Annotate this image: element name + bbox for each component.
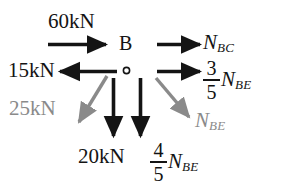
label-NBE-y-component: 4 5 NBE	[150, 140, 198, 183]
nbe-y-symbol: N	[168, 149, 182, 173]
nbc-subscript: BC	[217, 40, 234, 55]
nbe-y-variable: NBE	[168, 151, 198, 173]
label-25kN: 25kN	[9, 98, 56, 119]
nbe-x-variable: NBE	[221, 69, 251, 91]
arrow-NBE-resultant	[156, 78, 189, 117]
joint-label-B: B	[119, 33, 132, 53]
nbc-symbol: N	[203, 30, 217, 54]
fraction-numerator: 4	[152, 140, 166, 161]
fraction-denominator: 5	[152, 163, 166, 183]
label-NBE-resultant: NBE	[195, 110, 225, 132]
label-NBE-x-component: 3 5 NBE	[203, 58, 251, 102]
free-body-diagram: 60kN B NBC 15kN 3 5 NBE 25kN NBE 20kN 4 …	[0, 0, 283, 183]
label-15kN: 15kN	[8, 60, 55, 81]
label-NBC: NBC	[203, 32, 234, 54]
nbe-x-symbol: N	[221, 67, 235, 91]
nbe-y-subscript: BE	[182, 159, 198, 174]
nbe-symbol: N	[195, 108, 209, 132]
joint-node-marker	[123, 67, 129, 73]
label-20kN: 20kN	[78, 146, 125, 167]
nbe-subscript: BE	[209, 118, 225, 133]
fraction-denominator: 5	[205, 81, 219, 102]
label-60kN: 60kN	[48, 11, 95, 32]
arrow-25kN	[79, 76, 107, 122]
fraction-four-fifths: 4 5	[150, 140, 167, 183]
fraction-three-fifths: 3 5	[203, 58, 220, 102]
nbe-x-subscript: BE	[235, 77, 251, 92]
fraction-numerator: 3	[205, 58, 219, 79]
